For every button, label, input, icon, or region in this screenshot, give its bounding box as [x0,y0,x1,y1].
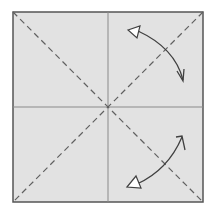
fold-diagram [0,0,216,216]
